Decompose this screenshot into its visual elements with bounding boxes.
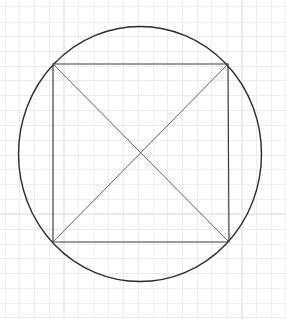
canvas-background — [0, 0, 286, 319]
drawing-canvas — [0, 0, 286, 319]
geometry-figure — [0, 0, 286, 319]
